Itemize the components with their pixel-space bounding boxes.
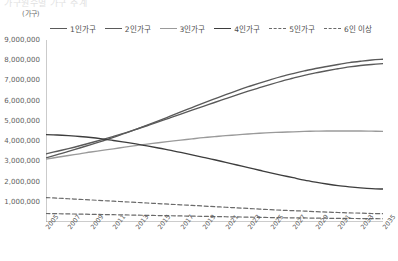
y-axis-tick-label: 7,000,000: [4, 76, 40, 84]
x-axis-tick-labels: 2005200720092011201320152017201920212023…: [46, 224, 383, 260]
legend-label: 2인가구: [125, 23, 151, 34]
chart-svg: [46, 40, 383, 222]
chart-legend: 1인가구2인가구3인가구4인가구5인가구6인 이상: [50, 20, 395, 36]
legend-swatch-icon: [50, 28, 67, 29]
legend-swatch-icon: [269, 28, 286, 29]
legend-item-3: 3인가구: [160, 23, 206, 34]
legend-swatch-icon: [160, 28, 177, 29]
y-axis-tick-labels: 9,000,0008,000,0007,000,0006,000,0005,00…: [0, 40, 44, 222]
y-axis-tick-label: 3,000,000: [4, 157, 40, 165]
legend-label: 3인가구: [180, 23, 206, 34]
y-axis-tick-label: 9,000,000: [4, 36, 40, 44]
y-axis-tick-label: 6,000,000: [4, 97, 40, 105]
y-axis-tick-label: 8,000,000: [4, 56, 40, 64]
legend-label: 4인가구: [234, 23, 260, 34]
legend-label: 6인 이상: [344, 23, 372, 34]
y-axis-tick-label: 2,000,000: [4, 178, 40, 186]
series-line-3인가구: [46, 131, 383, 159]
y-axis-tick-label: 1,000,000: [4, 198, 40, 206]
legend-swatch-icon: [105, 28, 122, 29]
series-line-1인가구: [46, 59, 383, 158]
plot-area: [46, 40, 383, 222]
page-title: 가구원수별 가구 추계: [4, 0, 87, 9]
legend-item-6: 6인 이상: [324, 23, 372, 34]
y-axis-tick-label: 4,000,000: [4, 137, 40, 145]
legend-swatch-icon: [324, 28, 341, 29]
legend-item-1: 1인가구: [50, 23, 96, 34]
legend-swatch-icon: [214, 28, 231, 29]
legend-item-4: 4인가구: [214, 23, 260, 34]
series-line-5인가구: [46, 198, 383, 214]
legend-item-5: 5인가구: [269, 23, 315, 34]
legend-item-2: 2인가구: [105, 23, 151, 34]
x-axis-tick-label: 2035: [381, 213, 397, 231]
y-axis-tick-label: 5,000,000: [4, 117, 40, 125]
legend-label: 5인가구: [289, 23, 315, 34]
y-axis-unit-label: (가구): [22, 8, 39, 18]
legend-label: 1인가구: [70, 23, 96, 34]
series-line-2인가구: [46, 64, 383, 154]
